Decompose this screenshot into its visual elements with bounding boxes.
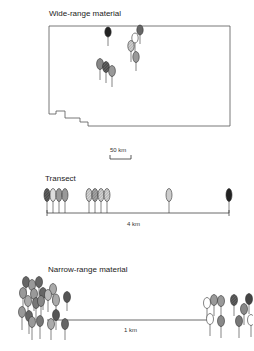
narrow-right-cluster	[204, 294, 254, 339]
diagram-canvas	[0, 0, 253, 351]
narrow-left-cluster	[19, 277, 71, 341]
wide-range-trees	[97, 25, 144, 87]
transect-trees	[44, 189, 232, 214]
transect-line	[47, 210, 229, 216]
scale-bar	[110, 155, 131, 159]
region-map-outline	[49, 26, 230, 126]
